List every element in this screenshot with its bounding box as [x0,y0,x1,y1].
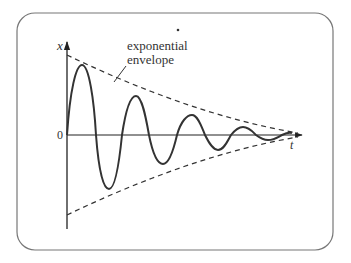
damped-oscillation-diagram: x 0 t exponential envelope [0,0,351,263]
annotation-line-2: envelope [127,52,174,67]
annotation-line-1: exponential [127,38,188,53]
y-axis-label: x [56,38,63,53]
origin-label: 0 [57,128,63,142]
stray-mark [177,29,180,32]
